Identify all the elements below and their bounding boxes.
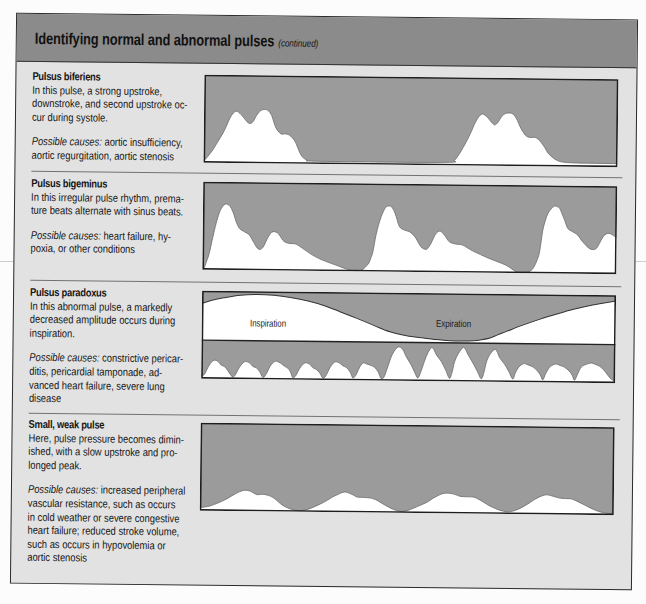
pulse-reference-table: Identifying normal and abnormal pulses(c… [9, 13, 637, 591]
causes-line: ditis, pericardial tamponade, ad- [28, 365, 182, 380]
causes-text: increased peripheral [97, 484, 184, 497]
continued-note: (continued) [278, 37, 318, 48]
causes-text: constrictive pericar- [98, 352, 182, 365]
section-small-weak-pulse-text: Small, weak pulse Here, pulse pressure b… [26, 418, 185, 567]
description-line: cur during systole. [31, 111, 187, 126]
section-heading: Pulsus paradoxus [29, 286, 183, 301]
pulsus-bigeminus-waveform [201, 182, 616, 274]
causes-line: disease [28, 392, 182, 407]
possible-causes: Possible causes: aortic insufficiency, a… [30, 135, 186, 164]
causes-label: Possible causes: [30, 229, 100, 242]
causes-label: Possible causes: [31, 135, 101, 148]
possible-causes: Possible causes: increased peripheral va… [26, 483, 184, 566]
causes-line: aortic stenosis [26, 551, 184, 566]
causes-text: aortic insufficiency, [101, 136, 182, 149]
possible-causes: Possible causes: heart failure, hy- poxi… [29, 229, 182, 258]
section-pulsus-paradoxus-text: Pulsus paradoxus In this abnormal pulse,… [28, 286, 183, 407]
description-line: ished, with a slow upstroke and pro- [27, 445, 185, 460]
causes-line: heart failure; reduced stroke volume, [26, 524, 184, 539]
causes-line: vascular resistance, such as occurs [27, 497, 185, 512]
description-line: ture beats alternate with sinus beats. [30, 204, 183, 219]
description-line: inspiration. [29, 327, 183, 342]
section-pulsus-bigeminus-text: Pulsus bigeminus In this irregular pulse… [29, 177, 183, 258]
page-title: Identifying normal and abnormal pulses(c… [34, 31, 318, 52]
causes-label: Possible causes: [28, 351, 98, 364]
causes-text: heart failure, hy- [100, 229, 170, 242]
section-pulsus-biferiens-text: Pulsus biferiens In this pulse, a strong… [30, 70, 186, 164]
title-text: Identifying normal and abnormal pulses [34, 30, 274, 50]
inspiration-label: Inspiration [249, 317, 285, 328]
description-line: longed peak. [27, 459, 185, 474]
description-line: decreased amplitude occurs during [29, 313, 183, 328]
pulsus-biferiens-waveform [202, 75, 617, 167]
section-heading: Pulsus biferiens [31, 70, 187, 85]
section-heading: Pulsus bigeminus [30, 177, 183, 192]
pulsus-paradoxus-waveform: Inspiration Expiration [200, 291, 615, 383]
description-line: downstroke, and second upstroke oc- [31, 97, 187, 112]
section-heading: Small, weak pulse [28, 418, 186, 433]
small-weak-pulse-waveform [199, 423, 614, 515]
possible-causes: Possible causes: constrictive pericar- d… [28, 351, 182, 407]
causes-line: poxia, or other conditions [29, 242, 182, 257]
causes-line: aortic regurgitation, aortic stenosis [30, 149, 186, 164]
causes-label: Possible causes: [27, 483, 97, 496]
table-header: Identifying normal and abnormal pulses(c… [16, 14, 636, 69]
expiration-label: Expiration [435, 318, 470, 329]
